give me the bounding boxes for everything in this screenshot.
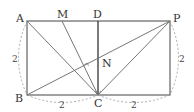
geometry-figure: A M D P B C N 2 2 2 2 xyxy=(0,0,194,112)
label-B: B xyxy=(15,92,23,105)
label-A: A xyxy=(15,12,25,25)
length-left: 2 xyxy=(12,54,18,64)
dimension-arc-right xyxy=(170,21,179,95)
label-M: M xyxy=(57,8,68,21)
length-right: 2 xyxy=(179,54,185,64)
dimension-arc-left xyxy=(19,21,28,95)
label-D: D xyxy=(93,8,102,21)
label-N: N xyxy=(102,57,112,70)
label-P: P xyxy=(173,12,181,25)
segment-AC xyxy=(27,21,98,95)
length-bottom-right: 2 xyxy=(131,100,137,110)
segment-MC xyxy=(62,21,98,95)
length-bottom-left: 2 xyxy=(59,100,65,110)
label-C: C xyxy=(94,97,102,110)
